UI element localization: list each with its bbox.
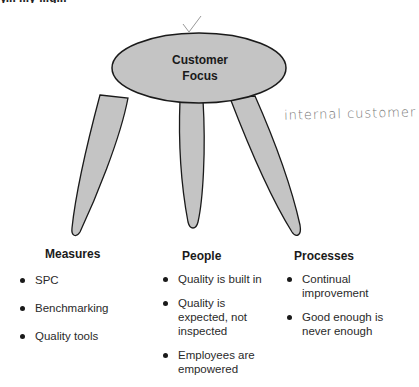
list-item: Employees are empowered	[160, 348, 258, 376]
column-processes: Processes Continual improvement Good eno…	[284, 249, 392, 348]
leg-people	[179, 100, 204, 228]
list-item: Quality is built in	[160, 272, 298, 286]
seat-label-line1: Customer	[150, 52, 250, 68]
column-measures: Measures SPC Benchmarking Quality tools	[17, 247, 109, 357]
leg-measures	[72, 95, 128, 235]
list-item: Continual improvement	[284, 272, 372, 300]
seat-label-line2: Focus	[150, 68, 250, 84]
column-title: Processes	[294, 249, 392, 263]
list-item: Quality is expected, not inspected	[160, 296, 278, 338]
list-item: Good enough is never enough	[284, 310, 392, 338]
bullet-list: Quality is built in Quality is expected,…	[160, 272, 298, 376]
column-title: Measures	[45, 247, 109, 261]
seat-label: Customer Focus	[150, 52, 250, 84]
list-item: Quality tools	[17, 329, 109, 343]
checkmark-icon	[181, 14, 203, 34]
column-people: People Quality is built in Quality is ex…	[160, 249, 298, 386]
list-item: SPC	[17, 273, 109, 287]
bullet-list: Continual improvement Good enough is nev…	[284, 272, 392, 338]
bullet-list: SPC Benchmarking Quality tools	[17, 273, 109, 343]
column-title: People	[182, 249, 298, 263]
list-item: Benchmarking	[17, 301, 109, 315]
